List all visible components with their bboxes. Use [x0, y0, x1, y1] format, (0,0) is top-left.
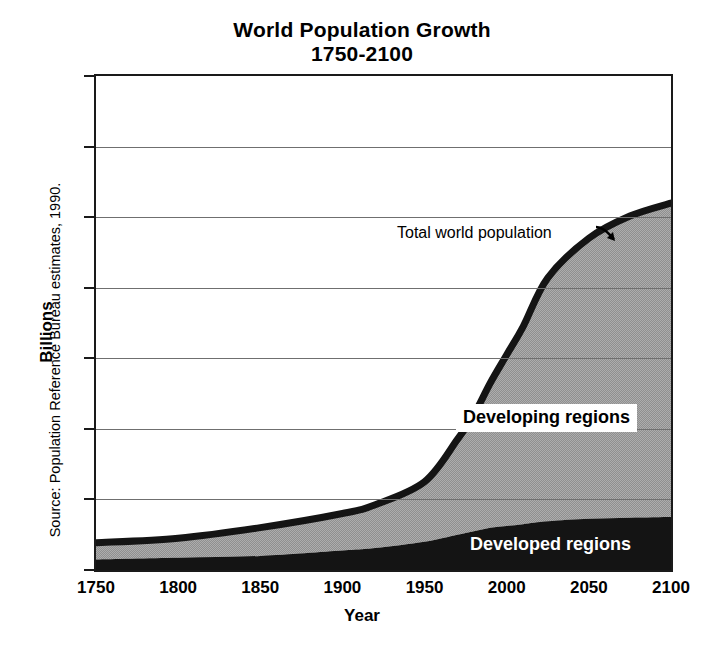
- y-tick-mark: [84, 146, 94, 148]
- x-tick-label: 1900: [302, 578, 382, 598]
- x-tick-label: 1800: [138, 578, 218, 598]
- x-axis-title: Year: [0, 606, 724, 626]
- chart-title-line2: 1750-2100: [0, 42, 724, 66]
- gridline: [96, 358, 671, 359]
- y-tick-mark: [84, 357, 94, 359]
- x-tick-label: 1750: [56, 578, 136, 598]
- area-developing-regions: [96, 203, 671, 559]
- plot-inner: [96, 76, 671, 570]
- y-tick-mark: [84, 75, 94, 77]
- chart-figure: World Population Growth 1750-2100 Source…: [0, 0, 724, 650]
- gridline: [96, 217, 671, 218]
- y-tick-mark: [84, 428, 94, 430]
- x-tick-label: 2100: [631, 578, 711, 598]
- annotation-arrow-icon: [595, 222, 623, 248]
- x-tick-label: 2000: [467, 578, 547, 598]
- legend-label-developed-regions: Developed regions: [466, 532, 635, 557]
- y-axis-title: Billions: [37, 272, 57, 392]
- y-tick-mark: [84, 287, 94, 289]
- annotation-total-world-population: Total world population: [397, 224, 552, 242]
- chart-title-line1: World Population Growth: [0, 18, 724, 42]
- x-tick-label: 1950: [385, 578, 465, 598]
- x-tick-label: 2050: [549, 578, 629, 598]
- legend-label-developing-regions: Developing regions: [456, 404, 637, 432]
- y-tick-mark: [84, 498, 94, 500]
- gridline: [96, 288, 671, 289]
- x-tick-label: 1850: [220, 578, 300, 598]
- gridline: [96, 499, 671, 500]
- plot-area: [94, 74, 673, 572]
- y-tick-mark: [84, 569, 94, 571]
- chart-title: World Population Growth 1750-2100: [0, 18, 724, 65]
- y-tick-mark: [84, 216, 94, 218]
- gridline: [96, 147, 671, 148]
- stacked-area-plot: [96, 76, 671, 570]
